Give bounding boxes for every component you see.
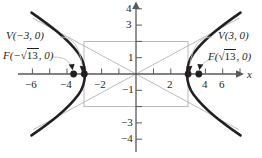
y-tick-label--4: −4 xyxy=(121,133,133,144)
y-axis-arrowhead xyxy=(132,2,140,10)
x-tick-label--4: −4 xyxy=(60,79,72,90)
x-tick-label--2: −2 xyxy=(94,79,106,90)
radicand-right: 13 xyxy=(224,49,236,62)
leader-vertex-left xyxy=(60,37,83,68)
callout-focus-left-suffix: , 0) xyxy=(39,49,54,61)
arrowhead-focus-left xyxy=(69,64,75,70)
callout-focus-right: F(√13, 0) xyxy=(208,51,251,62)
point-focus-right xyxy=(195,71,202,78)
radicand-left: 13 xyxy=(27,48,39,61)
y-tick-label-1: 1 xyxy=(128,52,134,63)
point-vertex-left xyxy=(81,71,88,78)
y-tick-label-4: 4 xyxy=(126,3,132,14)
radical-left: √13 xyxy=(21,50,39,61)
arrowhead-focus-right xyxy=(197,64,203,70)
radical-sign-left: √ xyxy=(21,49,27,61)
x-axis-label: x xyxy=(247,69,252,80)
y-tick-label--1: −1 xyxy=(122,84,134,95)
point-focus-left xyxy=(70,71,77,78)
callout-focus-right-suffix: , 0) xyxy=(236,50,251,62)
point-vertex-right xyxy=(185,71,192,78)
radical-right: √13 xyxy=(218,51,236,62)
y-tick-label--3: −3 xyxy=(121,117,133,128)
callout-vertex-left: V(−3, 0) xyxy=(6,30,44,41)
hyperbola-figure: −6 −4 −2 2 4 6 4 3 1 −1 −3 −4 x V(−3, 0)… xyxy=(0,0,262,158)
x-tick-label--6: −6 xyxy=(25,79,37,90)
callout-focus-left-prefix: F(− xyxy=(3,49,21,61)
leader-focus-left xyxy=(52,57,72,66)
x-tick-label-6: 6 xyxy=(219,79,225,90)
callout-focus-left: F(−√13, 0) xyxy=(3,50,54,61)
x-tick-label-2: 2 xyxy=(167,79,173,90)
callout-focus-right-prefix: F( xyxy=(208,50,218,62)
callout-vertex-right: V(3, 0) xyxy=(218,30,249,41)
y-tick-label-3: 3 xyxy=(126,19,132,30)
x-tick-label-4: 4 xyxy=(202,79,208,90)
